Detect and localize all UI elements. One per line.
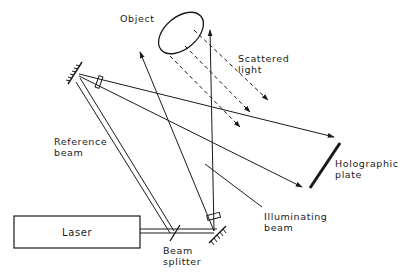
- illuminating-ray-left: [140, 52, 214, 231]
- illuminating-beam-label-line1: Illuminating: [264, 211, 327, 222]
- object-ellipse: [151, 4, 211, 62]
- reference-beam: [76, 78, 174, 233]
- object-label: Object: [120, 13, 155, 24]
- illuminating-ray-vertical: [210, 30, 214, 231]
- illuminating-beam-label-line2: beam: [264, 222, 293, 233]
- reference-beam-label-line2: beam: [54, 147, 83, 158]
- reference-ray-upper: [79, 74, 334, 137]
- beam-splitter-label-line2: splitter: [163, 256, 201, 267]
- scattered-light-label-line1: Scattered: [238, 53, 289, 64]
- holographic-plate-label-line2: plate: [335, 169, 362, 180]
- top-left-mirror: [66, 62, 82, 84]
- scattered-light-rays: [170, 30, 268, 127]
- holographic-plate-label-line1: Holographic: [335, 158, 399, 169]
- reference-beam-label-line1: Reference: [54, 136, 107, 147]
- laser-label: Laser: [62, 227, 92, 238]
- beam-splitter-label-line1: Beam: [163, 245, 193, 256]
- laser-output-beam: [140, 229, 217, 233]
- scattered-light-label-line2: light: [238, 64, 262, 75]
